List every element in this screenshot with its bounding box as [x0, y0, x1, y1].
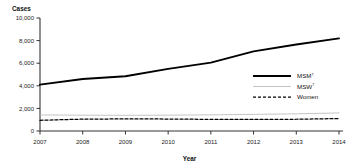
x-axis-tick-label: 2010: [161, 139, 175, 145]
chart-canvas: 02,0004,0006,0008,00010,0002007200820092…: [0, 0, 349, 167]
legend-label-msw: MSW†: [297, 82, 314, 89]
series-line-msm: [40, 38, 339, 84]
x-axis-tick-label: 2007: [33, 139, 47, 145]
x-axis-tick-label: 2011: [204, 139, 218, 145]
y-axis-tick-label: 10,000: [16, 15, 35, 21]
chart-legend: MSM†MSW†Women: [253, 72, 319, 100]
x-axis-tick-label: 2009: [119, 139, 133, 145]
x-axis-tick-label: 2013: [290, 139, 304, 145]
series-line-women: [40, 119, 339, 121]
y-axis-tick-label: 4,000: [19, 83, 35, 89]
x-axis-tick-label: 2008: [76, 139, 90, 145]
x-axis-tick-label: 2014: [332, 139, 346, 145]
y-axis-tick-label: 0: [31, 128, 35, 134]
y-axis-tick-label: 6,000: [19, 60, 35, 66]
y-axis-title: Cases: [12, 5, 31, 12]
legend-footnote-marker: †: [311, 72, 313, 77]
line-chart: 02,0004,0006,0008,00010,0002007200820092…: [0, 0, 349, 167]
legend-label-msm: MSM†: [297, 72, 314, 79]
series-line-msw: [40, 113, 339, 115]
y-axis-tick-label: 8,000: [19, 38, 35, 44]
legend-label-women: Women: [297, 93, 319, 100]
legend-footnote-marker: †: [312, 82, 314, 87]
x-axis-tick-label: 2012: [247, 139, 261, 145]
x-axis-title: Year: [183, 155, 197, 162]
y-axis-tick-label: 2,000: [19, 106, 35, 112]
